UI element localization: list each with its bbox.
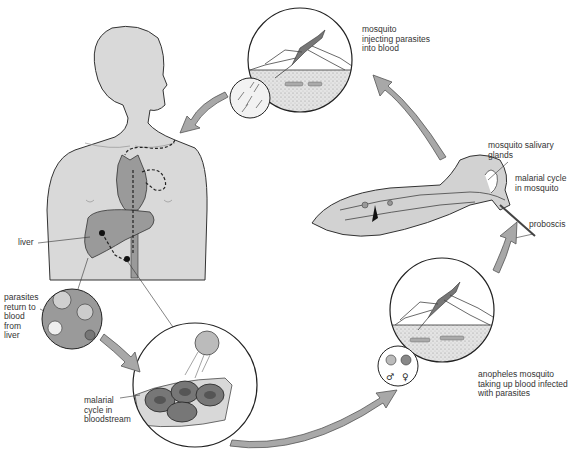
label-line: with parasites xyxy=(478,389,568,399)
label-line: in mosquito xyxy=(515,184,567,194)
label-mosquito-injecting: mosquito injecting parasites into blood xyxy=(362,25,430,54)
male-symbol: ♂ xyxy=(386,372,394,382)
label-line: proboscis xyxy=(529,220,565,230)
label-liver: liver xyxy=(18,238,34,248)
label-line: glands xyxy=(488,151,554,161)
label-cycle-in-mosquito: malarial cycle in mosquito xyxy=(515,174,567,193)
inset-liver-parasites xyxy=(40,288,104,352)
label-line: into blood xyxy=(362,44,430,54)
label-anopheles-taking-blood: anopheles mosquito taking up blood infec… xyxy=(478,370,568,399)
female-symbol: ♀ xyxy=(402,372,409,382)
label-line: liver xyxy=(4,331,39,341)
inset-mosquito-injecting xyxy=(230,0,360,120)
mosquito-cross-section xyxy=(312,155,535,236)
inset-bloodstream xyxy=(130,320,260,450)
label-line: liver xyxy=(18,238,34,248)
human-figure xyxy=(47,26,207,280)
label-cycle-in-bloodstream: malarial cycle in bloodstream xyxy=(84,396,131,425)
label-parasites-return: parasites return to blood from liver xyxy=(4,293,39,341)
label-proboscis: proboscis xyxy=(529,220,565,230)
inset-anopheles-feeding xyxy=(378,258,500,386)
label-line: bloodstream xyxy=(84,415,131,425)
label-salivary-glands: mosquito salivary glands xyxy=(488,141,554,160)
